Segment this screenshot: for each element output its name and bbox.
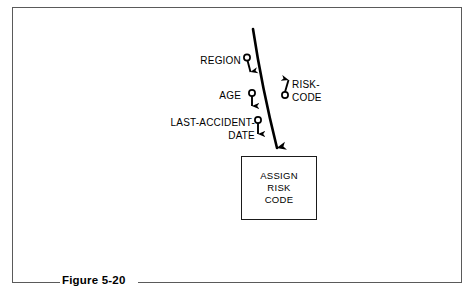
flow-label-age-line-1: AGE — [219, 90, 241, 103]
figure-page: REGION AGE LAST-ACCIDENT- DATE RISK- COD… — [0, 0, 473, 291]
module-label-line-3: CODE — [265, 194, 294, 206]
module-assign-risk-code: ASSIGN RISK CODE — [241, 156, 317, 220]
flow-label-last-accident-date-line-1: LAST-ACCIDENT- — [171, 117, 255, 130]
flow-label-risk-code-line-2: CODE — [292, 92, 322, 105]
flow-label-region-line-1: REGION — [200, 55, 241, 68]
module-label-line-1: ASSIGN — [260, 170, 298, 182]
flow-label-region: REGION — [200, 55, 241, 68]
figure-caption: Figure 5-20 — [62, 274, 126, 286]
flow-label-last-accident-date: LAST-ACCIDENT- DATE — [171, 117, 255, 142]
flow-label-last-accident-date-line-2: DATE — [171, 130, 255, 143]
figure-frame — [12, 7, 462, 283]
module-label-line-2: RISK — [267, 182, 290, 194]
flow-label-risk-code-line-1: RISK- — [292, 79, 322, 92]
flow-label-age: AGE — [219, 90, 241, 103]
flow-label-risk-code: RISK- CODE — [292, 79, 322, 104]
